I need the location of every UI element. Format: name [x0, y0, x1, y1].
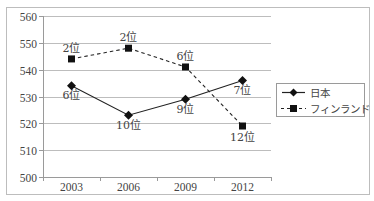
y-tick-label: 530	[20, 92, 38, 104]
y-tick-label: 540	[20, 65, 38, 77]
square-marker-icon	[239, 123, 246, 130]
series-finland: 2位2位6位12位	[63, 30, 256, 144]
rank-label: 12位	[230, 130, 255, 144]
series-line	[72, 48, 243, 126]
x-tick-label: 2006	[117, 181, 140, 193]
legend-label: フィンランド	[310, 101, 370, 116]
y-tick-label: 510	[20, 145, 38, 157]
legend-item-finland: フィンランド	[277, 100, 364, 116]
square-marker-icon	[68, 55, 75, 62]
rank-label: 7位	[234, 83, 252, 97]
y-axis-ticks: 500510520530540550560	[20, 11, 43, 184]
legend-item-japan: 日本	[277, 84, 364, 100]
legend: 日本 フィンランド	[276, 83, 365, 117]
x-tick-label: 2012	[231, 181, 254, 193]
x-tick-label: 2003	[60, 181, 83, 193]
rank-label: 6位	[177, 49, 195, 63]
x-axis-ticks: 2003200620092012	[44, 177, 272, 193]
rank-label: 10位	[116, 118, 141, 132]
x-tick-label: 2009	[174, 181, 197, 193]
square-marker-icon	[182, 63, 189, 70]
y-tick-label: 500	[20, 172, 38, 184]
y-tick-label: 550	[20, 38, 38, 50]
square-marker-icon	[125, 45, 132, 52]
y-tick-label: 520	[20, 118, 38, 130]
series-group: 6位10位9位7位2位2位6位12位	[63, 30, 256, 144]
y-tick-label: 560	[20, 11, 38, 23]
diamond-marker-icon	[277, 84, 310, 100]
rank-label: 2位	[63, 41, 81, 55]
rank-label: 2位	[120, 30, 138, 44]
rank-label: 9位	[177, 102, 195, 116]
square-marker-icon	[277, 100, 310, 116]
legend-label: 日本	[310, 85, 330, 100]
rank-label: 6位	[63, 88, 81, 102]
